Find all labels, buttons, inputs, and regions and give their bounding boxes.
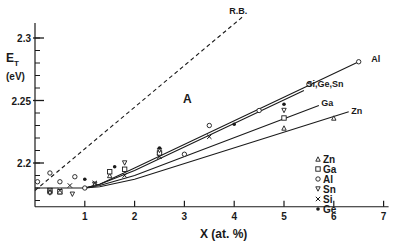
dot-marker-icon: [232, 122, 236, 126]
circle-marker-icon: [58, 180, 62, 184]
x-tick-label: 4: [231, 211, 237, 222]
legend: ZnGaAlSnSiGe: [316, 154, 337, 215]
square-marker-icon: [122, 167, 126, 171]
dot-marker-icon: [158, 146, 162, 150]
series-label: Ga: [321, 98, 334, 108]
square-marker-icon: [282, 116, 286, 120]
series-label: Zn: [351, 106, 362, 116]
x-tick-label: 7: [381, 211, 387, 222]
square-marker-icon: [316, 167, 320, 171]
circle-marker-icon: [182, 152, 186, 156]
x-tick-label: 5: [281, 211, 287, 222]
series-lines: [35, 16, 359, 191]
series-line-r-b-: [35, 16, 244, 191]
y-tick-label: 2.25: [12, 96, 32, 107]
dot-marker-icon: [83, 177, 87, 181]
x-axis-label: X (at. %): [200, 227, 247, 241]
x-tick-label: 3: [182, 211, 188, 222]
legend-label: Ge: [323, 204, 337, 215]
triangle-down-marker-icon: [122, 161, 126, 165]
series-line-zn: [85, 112, 349, 188]
dot-marker-icon: [316, 207, 320, 211]
x-tick-label: 2: [132, 211, 138, 222]
circle-marker-icon: [316, 177, 320, 181]
series-label: Si,Ge,Sn: [306, 79, 343, 89]
series-label: R.B.: [229, 6, 247, 16]
triangle-down-marker-icon: [316, 187, 320, 191]
dot-marker-icon: [113, 165, 117, 169]
triangle-marker-icon: [282, 126, 286, 130]
triangle-down-marker-icon: [282, 108, 286, 112]
et-vs-x-plot: 2.22.252.31234567 R.B.AlSi,Ge,SnGaZn ZnG…: [0, 0, 401, 247]
region-label: A: [183, 92, 192, 106]
dot-marker-icon: [282, 102, 286, 106]
triangle-marker-icon: [316, 157, 320, 161]
series-label: Al: [371, 54, 380, 64]
x-tick-label: 1: [82, 211, 88, 222]
circle-marker-icon: [83, 186, 87, 190]
circle-marker-icon: [35, 180, 39, 184]
circle-marker-icon: [207, 123, 211, 127]
y-tick-label: 2.3: [17, 33, 31, 44]
y-tick-label: 2.2: [17, 158, 31, 169]
y-axis-label: ET: [6, 51, 19, 68]
circle-marker-icon: [48, 171, 52, 175]
triangle-down-marker-icon: [70, 192, 74, 196]
circle-marker-icon: [257, 108, 261, 112]
square-marker-icon: [108, 170, 112, 174]
circle-marker-icon: [357, 60, 361, 64]
y-axis-unit: (eV): [6, 71, 25, 82]
circle-marker-icon: [73, 175, 77, 179]
chart-figure: 2.22.252.31234567 R.B.AlSi,Ge,SnGaZn ZnG…: [0, 0, 401, 247]
